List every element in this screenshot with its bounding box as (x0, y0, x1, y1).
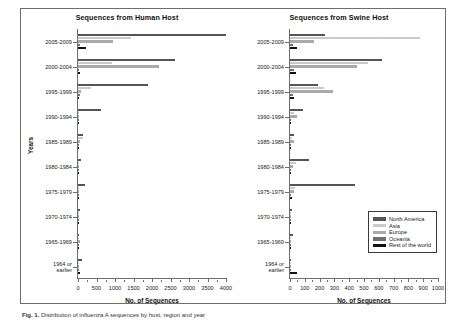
chart-title-swine: Sequences from Swine Host (233, 13, 445, 22)
x-tick-label: 100 (300, 285, 309, 291)
x-tick-label: 800 (404, 285, 413, 291)
bar (78, 144, 79, 146)
bar-group (78, 129, 227, 154)
x-axis-title-human: No. of Sequences (77, 297, 227, 304)
x-minor-tick (87, 280, 88, 282)
x-minor-tick (327, 280, 328, 282)
bar (78, 244, 79, 246)
bar (290, 34, 325, 36)
legend-swatch-icon (373, 217, 386, 220)
bar (290, 134, 294, 136)
legend-label: Europe (389, 229, 407, 235)
bar (78, 137, 83, 139)
bar (78, 194, 79, 196)
bar (78, 112, 79, 114)
legend-swatch-icon (373, 244, 386, 247)
x-tick-label: 3500 (201, 285, 213, 291)
bar (78, 187, 79, 189)
bar (78, 97, 79, 99)
x-tick-label: 600 (374, 285, 383, 291)
legend-item: North America (373, 216, 431, 222)
y-tick (73, 217, 77, 218)
bar (290, 162, 296, 164)
x-tick (379, 279, 380, 282)
x-tick-label: 700 (389, 285, 398, 291)
x-minor-tick (161, 280, 162, 282)
bar-group (290, 79, 439, 104)
bar (78, 265, 79, 267)
bar (78, 119, 79, 121)
bar (78, 219, 79, 221)
y-tick (73, 142, 77, 143)
bar (78, 87, 91, 89)
bar (78, 184, 85, 186)
x-tick (394, 279, 395, 282)
x-tick-label: 0 (288, 285, 291, 291)
x-minor-tick (371, 280, 372, 282)
bar (290, 194, 291, 196)
y-tick (285, 167, 289, 168)
bar (290, 172, 291, 174)
y-tick-label: 1975-1979 (257, 188, 284, 194)
y-tick-label: 1990-1994 (45, 113, 72, 119)
y-tick-label: 1965-1969 (257, 238, 284, 244)
y-tick (285, 192, 289, 193)
y-tick (73, 117, 77, 118)
bar (78, 247, 79, 249)
x-tick (349, 279, 350, 282)
bar (290, 59, 382, 61)
bar (290, 87, 324, 89)
y-tick-label: 1995-1999 (45, 88, 72, 94)
legend-label: Asia (389, 223, 400, 229)
y-tick (285, 42, 289, 43)
bar (290, 159, 309, 161)
legend-label: Rest of the world (389, 242, 431, 248)
x-tick (438, 279, 439, 282)
bar-group (78, 229, 227, 254)
bar (290, 269, 291, 271)
y-tick-label: 1990-1994 (257, 113, 284, 119)
bar (290, 219, 291, 221)
bar (78, 62, 112, 64)
legend-swatch-icon (373, 231, 386, 234)
chart-title-human: Sequences from Human Host (21, 13, 233, 22)
bar-group (290, 104, 439, 129)
x-tick (226, 279, 227, 282)
bar (290, 165, 293, 167)
x-minor-tick (431, 280, 432, 282)
y-tick (285, 217, 289, 218)
x-minor-tick (124, 280, 125, 282)
bar (290, 187, 295, 189)
bar (290, 84, 318, 86)
bar-group (78, 179, 227, 204)
bar (78, 90, 81, 92)
bar (290, 147, 291, 149)
bar (290, 109, 303, 111)
bar (290, 47, 297, 49)
bar (78, 147, 79, 149)
x-tick-label: 500 (359, 285, 368, 291)
bar (78, 165, 79, 167)
bar (290, 262, 291, 264)
bar-group (78, 54, 227, 79)
bar (78, 240, 80, 242)
y-tick (285, 117, 289, 118)
y-tick (73, 167, 77, 168)
chart-panels: Sequences from Human Host Years No. of S… (21, 9, 445, 303)
x-tick (290, 279, 291, 282)
x-tick-label: 0 (76, 285, 79, 291)
x-tick (97, 279, 98, 282)
bar (78, 159, 81, 161)
figure-container: Sequences from Human Host Years No. of S… (0, 0, 456, 336)
x-tick (305, 279, 306, 282)
bar (290, 62, 368, 64)
bar (290, 259, 291, 261)
bar (78, 109, 101, 111)
bar (78, 172, 79, 174)
bar-group (78, 29, 227, 54)
plot-area-human: No. of Sequences 2005-20092000-20041995-… (77, 29, 227, 279)
x-tick-label: 300 (330, 285, 339, 291)
figure-caption: Fig. 1. Distribution of influenza A sequ… (22, 312, 205, 318)
bar (78, 37, 131, 39)
bar-group (290, 129, 439, 154)
